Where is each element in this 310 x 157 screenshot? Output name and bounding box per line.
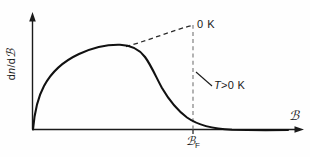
fermi-energy-label: ℬF xyxy=(186,134,200,150)
y-axis-label: dn/dℬ xyxy=(4,43,19,87)
chart-canvas xyxy=(0,0,310,157)
zero-kelvin-label: 0 K xyxy=(197,18,215,30)
zero-kelvin-curve xyxy=(126,25,193,46)
arrow-right-icon xyxy=(295,126,305,133)
finite-temperature-label: T>0 K xyxy=(214,79,245,91)
energy-distribution-chart: dn/dℬ ℬ 0 K T>0 K ℬF xyxy=(0,0,310,157)
finite-temperature-curve xyxy=(33,45,288,130)
annotation-leader-line xyxy=(196,72,212,86)
arrow-up-icon xyxy=(29,12,36,22)
x-axis-label: ℬ xyxy=(289,108,299,124)
